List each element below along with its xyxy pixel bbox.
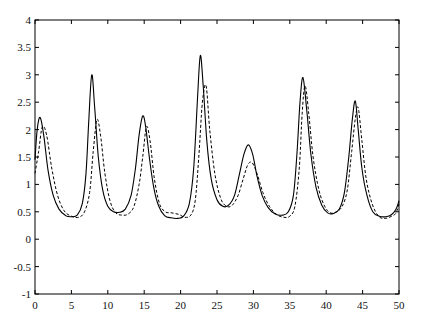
y-tick-label: 0 xyxy=(26,233,32,245)
plot-area xyxy=(35,20,399,294)
y-tick-label: -1 xyxy=(22,288,31,300)
y-tick-label: 0.5 xyxy=(17,206,31,218)
x-tick-label: 25 xyxy=(212,299,224,311)
y-tick-label: 2.5 xyxy=(17,96,31,108)
x-tick-label: 0 xyxy=(32,299,38,311)
data-series xyxy=(35,55,399,218)
axis-ticks xyxy=(35,20,399,294)
x-tick-label: 40 xyxy=(321,299,333,311)
axes-frame xyxy=(35,20,399,294)
y-tick-label: 2 xyxy=(26,124,32,136)
y-tick-label: 4 xyxy=(26,14,32,26)
y-tick-label: -0.5 xyxy=(14,261,32,273)
x-tick-label: 20 xyxy=(175,299,187,311)
x-tick-label: 45 xyxy=(357,299,369,311)
y-tick-label: 3 xyxy=(26,69,32,81)
x-tick-label: 30 xyxy=(248,299,260,311)
x-tick-label: 5 xyxy=(69,299,75,311)
y-tick-label: 3.5 xyxy=(17,41,31,53)
x-tick-label: 15 xyxy=(139,299,151,311)
x-tick-label: 50 xyxy=(394,299,406,311)
solid-series-line xyxy=(35,55,399,218)
y-axis-tick-labels: -1-0.500.511.522.533.54 xyxy=(14,14,32,300)
x-axis-tick-labels: 05101520253035404550 xyxy=(32,299,405,311)
x-tick-label: 10 xyxy=(102,299,114,311)
x-tick-label: 35 xyxy=(284,299,296,311)
y-tick-label: 1.5 xyxy=(17,151,31,163)
y-tick-label: 1 xyxy=(26,178,32,190)
line-chart: 05101520253035404550 -1-0.500.511.522.53… xyxy=(0,0,424,320)
